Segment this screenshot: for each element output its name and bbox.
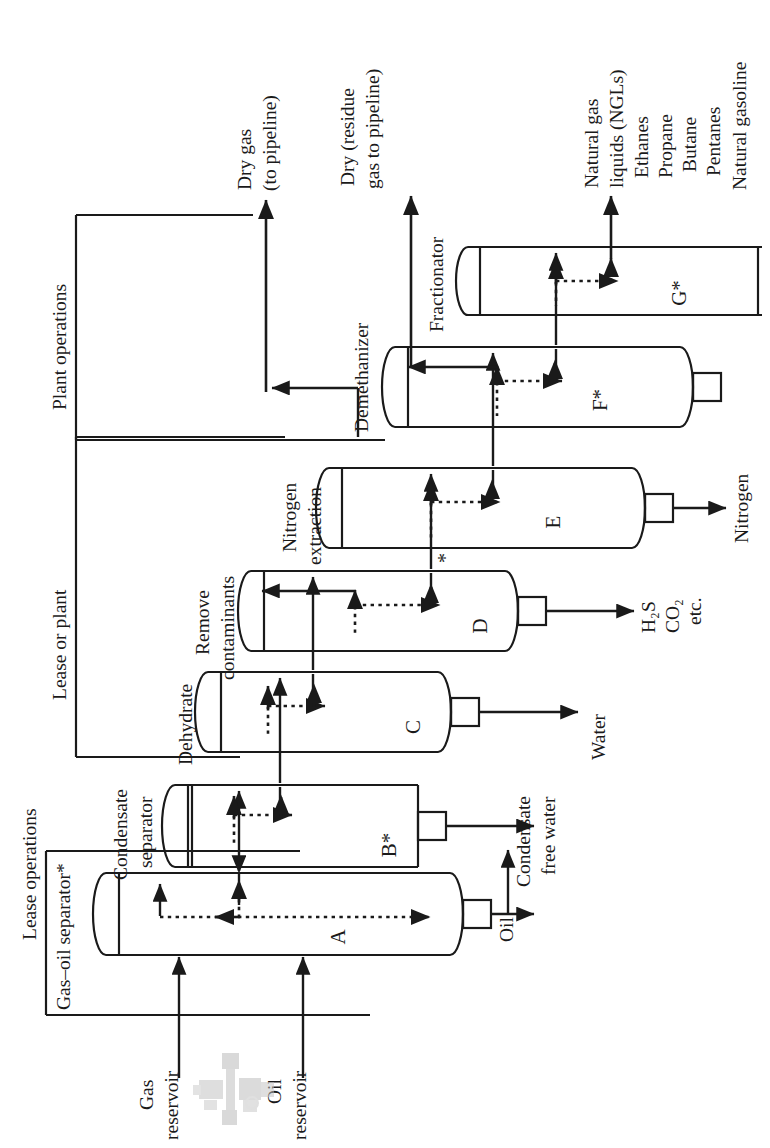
output-label-ngl-item-1: Propane <box>655 114 676 178</box>
vessel-tag-b: B* <box>377 833 401 858</box>
output-label-acid-gas-line3: etc. <box>684 597 705 625</box>
bracket-label-lease-or-plant: Lease or plant <box>49 589 70 700</box>
stage-label-remove-contaminants-line1: Remove <box>192 590 213 655</box>
stage-label-condensate-separator-line1: Condensate <box>110 789 131 880</box>
internal-return-d <box>262 590 356 605</box>
vessel-g <box>456 247 762 315</box>
internal-flow-c <box>268 684 325 737</box>
output-label-acid-gas-line1: H₂S <box>638 601 659 633</box>
source-label-gas-reservoir-line1: Gas <box>136 1080 157 1110</box>
vessel-f <box>382 347 721 427</box>
bracket-label-lease-operations: Lease operations <box>19 808 40 940</box>
vessel-tag-d: D <box>468 618 492 633</box>
output-label-ngl-item-4: Natural gasoline <box>729 62 750 190</box>
bracket-plant-operations <box>76 215 385 440</box>
vessel-tag-e: E <box>541 516 565 529</box>
source-label-oil-reservoir-line2: reservoir <box>289 1070 310 1140</box>
vessel-tag-f: F* <box>588 389 612 411</box>
output-label-ngl-item-2: Butane <box>679 117 700 172</box>
vessel-tag-a: A <box>326 929 350 945</box>
stage-label-gas-oil-separator: Gas–oil separator* <box>53 863 74 1010</box>
output-label-dry-gas-line1: Dry gas <box>234 129 255 190</box>
output-label-ngl-item-3: Pentanes <box>703 107 724 176</box>
stage-label-fractionator: Fractionator <box>426 236 447 332</box>
figure-canvas: Lease operations Lease or plant Plant op… <box>0 0 770 1148</box>
internal-flow-e <box>431 480 500 540</box>
stage-label-demethanizer: Demethanizer <box>351 322 372 432</box>
internal-flow-f <box>497 360 562 416</box>
stage-label-condensate-separator-line2: separator <box>135 796 156 868</box>
vessel-b <box>162 785 446 867</box>
output-label-condensate-line2: free water <box>538 796 559 875</box>
internal-branch-a <box>160 880 240 918</box>
output-label-water: Water <box>588 713 609 760</box>
vessel-tag-c: C <box>401 720 425 734</box>
output-label-nitrogen: Nitrogen <box>731 473 752 543</box>
stage-label-nitrogen-extraction-line1: Nitrogen <box>279 482 300 552</box>
internal-return-f <box>408 366 498 381</box>
arrow-output-dry-gas <box>266 200 358 437</box>
stage-label-remove-contaminants-line2: contaminants <box>217 576 238 680</box>
output-label-acid-gas-line2: CO₂ <box>662 599 683 633</box>
vessel-e <box>316 468 673 548</box>
stage-label-nitrogen-extraction-line2: extraction <box>304 487 325 565</box>
output-label-oil: Oil <box>496 917 517 943</box>
output-label-residue-gas-line1: Dry (residue <box>337 88 359 186</box>
output-label-ngl-item-0: Ethanes <box>631 116 652 178</box>
vessel-a <box>93 873 491 955</box>
output-label-ngl-heading-line1: Natural gas <box>581 99 602 188</box>
internal-flow-d <box>355 584 440 636</box>
output-label-residue-gas-line2: gas to pipeline) <box>362 69 384 189</box>
process-flow-diagram: Lease operations Lease or plant Plant op… <box>0 0 770 1148</box>
vessel-c <box>195 672 479 752</box>
output-label-ngl-heading-line2: liquids (NGLs) <box>606 69 628 188</box>
internal-flow-b <box>234 795 292 847</box>
wellhead-valve-icon <box>193 1053 274 1125</box>
output-label-condensate-line1: Condensate <box>513 796 534 887</box>
source-label-gas-reservoir-line2: reservoir <box>161 1070 182 1140</box>
vessel-tag-g: G* <box>667 280 691 306</box>
stage-label-dehydrate: Dehydrate <box>175 684 196 765</box>
output-label-dry-gas-line2: (to pipeline) <box>259 95 281 191</box>
inline-asterisk-note: * <box>434 553 456 563</box>
vessel-d <box>238 571 546 651</box>
internal-flow-g <box>556 258 618 306</box>
bracket-label-plant-operations: Plant operations <box>49 284 70 410</box>
